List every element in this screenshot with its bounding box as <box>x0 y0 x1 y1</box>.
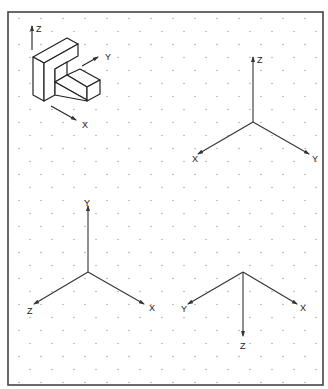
bottom-left-y-label: Y <box>84 198 90 208</box>
bottom-left-x-label: X <box>149 303 155 313</box>
example-x-label: X <box>82 120 88 130</box>
bottom-right-y-label: Y <box>181 304 187 314</box>
top-right-y-label: Y <box>312 154 318 164</box>
isometric-grid-diagram: Z Y X Z X Y Y Z X Z Y X <box>0 0 328 389</box>
example-z-label: Z <box>36 24 42 34</box>
example-y-label: Y <box>105 52 111 62</box>
bottom-left-z-label: Z <box>27 306 33 316</box>
bottom-right-z-label: Z <box>240 341 246 351</box>
top-right-x-label: X <box>192 154 198 164</box>
bottom-right-x-label: X <box>300 303 306 313</box>
top-right-z-label: Z <box>257 55 263 65</box>
